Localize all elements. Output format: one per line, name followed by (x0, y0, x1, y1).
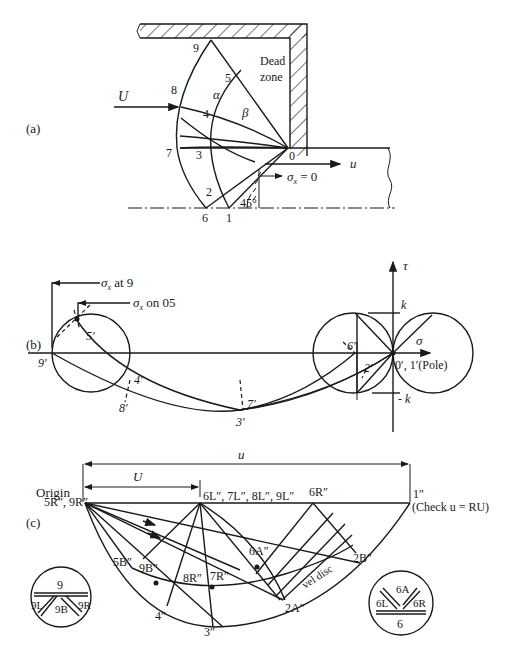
svg-text:6L: 6L (376, 597, 389, 609)
exit-velocity-label: u (350, 156, 357, 171)
svg-text:6R: 6R (413, 597, 427, 609)
k-neg-label: - k (398, 392, 411, 406)
panel-a-label: (a) (26, 121, 40, 136)
svg-text:4′: 4′ (134, 373, 143, 387)
svg-text:0: 0 (289, 149, 295, 163)
svg-text:3: 3 (196, 148, 202, 162)
point-9B: 9B″ (139, 561, 158, 575)
incoming-velocity-label: U (118, 89, 129, 104)
point-5B: 5B″ (113, 555, 132, 569)
svg-text:3′: 3′ (235, 415, 245, 429)
tau-axis-label: τ (403, 258, 409, 273)
svg-text:4: 4 (203, 107, 209, 121)
svg-text:8: 8 (171, 83, 177, 97)
break-line (388, 148, 392, 208)
point-7R: 7R″ (210, 569, 229, 583)
point-1: 1″ (413, 487, 424, 501)
svg-text:9′: 9′ (38, 356, 47, 370)
panel-a: (a) (26, 24, 395, 225)
origin-points-label: 5R″, 9R″ (44, 495, 88, 509)
svg-text:7′: 7′ (247, 397, 256, 411)
k-pos-label: k (401, 298, 407, 312)
slip-line-field-figure: (a) (0, 0, 508, 655)
beta-label: β (241, 105, 249, 120)
svg-text:9: 9 (57, 578, 63, 592)
svg-text:7: 7 (166, 146, 172, 160)
panel-b-label: (b) (26, 337, 41, 352)
svg-text:5′: 5′ (86, 329, 95, 343)
sigma-at-9-label: σx at 9 (101, 275, 133, 292)
svg-text:6: 6 (397, 617, 403, 631)
panel-a-points: 9 5 8 4 7 3 0 2 6 1 (166, 41, 295, 225)
svg-text:2: 2 (206, 185, 212, 199)
svg-text:2′: 2′ (364, 361, 373, 375)
svg-text:6A: 6A (396, 583, 410, 595)
point-4: 4″ (155, 609, 166, 623)
point-8R: 8R″ (183, 571, 202, 585)
svg-text:6′: 6′ (347, 339, 356, 353)
panel-c: (c) u U (26, 447, 489, 639)
inset-node-6: 6A 6L 6R 6 (369, 571, 433, 635)
dead-zone-label-2: zone (260, 70, 283, 84)
panel-c-label: (c) (26, 515, 40, 530)
svg-text:6: 6 (202, 211, 208, 225)
left-points-label: 6L″, 7L″, 8L″, 9L″ (203, 489, 294, 503)
pole-label: 0′, 1′(Pole) (395, 358, 448, 372)
alpha-label: α (213, 87, 221, 102)
svg-text:1: 1 (226, 211, 232, 225)
point-6A: 6A″ (249, 544, 269, 558)
die-wall (137, 24, 307, 156)
panel-b: (b) σ τ k - k (26, 258, 473, 432)
point-6R: 6R″ (309, 485, 328, 499)
svg-text:9L: 9L (31, 599, 44, 611)
svg-text:5: 5 (225, 71, 231, 85)
point-3: 3″ (204, 625, 215, 639)
U-dimension-label: U (133, 469, 144, 484)
u-dimension-label: u (238, 447, 245, 462)
svg-text:8′: 8′ (119, 401, 128, 415)
inset-node-9: 9 9L 9B 9R (31, 567, 92, 627)
point-2B: 2B″ (353, 551, 372, 565)
sigma-axis-label: σ (416, 333, 423, 348)
svg-text:9B: 9B (55, 603, 68, 615)
sigma-on-05-label: σx on 05 (133, 295, 175, 312)
dead-zone-label-1: Dead (260, 54, 285, 68)
svg-text:9: 9 (193, 41, 199, 55)
check-label: (Check u = RU) (412, 500, 489, 514)
point-2A: 2A″ (285, 601, 305, 615)
hodograph-outer-arc (85, 503, 410, 627)
boundary-condition-label: σx = 0 (287, 169, 317, 186)
svg-text:9R: 9R (78, 599, 92, 611)
angle-label: 45° (240, 196, 257, 210)
